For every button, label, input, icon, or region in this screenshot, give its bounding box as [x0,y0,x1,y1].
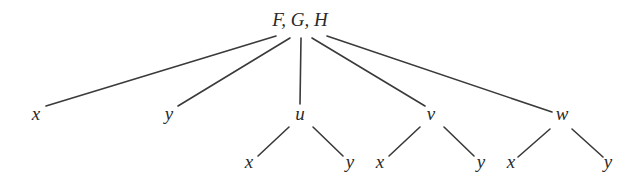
tree-edges [46,36,603,157]
edge-w-wy [572,129,603,157]
edge-root-w [327,36,552,112]
edge-w-wx [518,129,550,157]
root-node-label: F, G, H [271,9,329,30]
edge-u-ux [258,127,289,156]
node-label-vy: y [475,151,486,172]
node-label-w: w [556,103,569,124]
edge-root-v [312,38,425,106]
node-label-y1: y [163,103,174,124]
node-label-ux: x [244,151,254,172]
edge-u-uy [313,127,343,156]
edge-v-vx [389,127,420,156]
node-label-u: u [295,103,305,124]
node-label-wy: y [602,151,613,172]
edge-root-u [300,38,301,104]
node-label-vx: x [375,151,385,172]
edge-v-vy [444,127,474,156]
edge-root-x1 [46,36,276,106]
node-label-uy: y [344,151,355,172]
node-label-wx: x [506,151,516,172]
tree-labels: F, G, H xyuvwxyxyxy [31,9,613,172]
tree-diagram: F, G, H xyuvwxyxyxy [0,0,641,186]
node-label-v: v [427,103,436,124]
node-label-x1: x [31,103,41,124]
